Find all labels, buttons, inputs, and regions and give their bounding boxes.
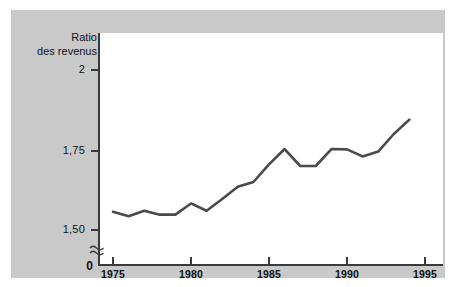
x-tick-label-1995: 1995 — [402, 268, 448, 280]
y-tick-2 — [91, 69, 99, 71]
chart-panel: Ratio des revenus 2 1,75 1,50 0 1975 198… — [11, 10, 445, 278]
x-tick-label-1980: 1980 — [168, 268, 214, 280]
x-tick-label-1990: 1990 — [324, 268, 370, 280]
y-axis-title-line2: des revenus — [23, 44, 97, 58]
y-tick-175 — [91, 150, 99, 152]
chart-figure: Ratio des revenus 2 1,75 1,50 0 1975 198… — [0, 0, 455, 287]
y-tick-150 — [91, 229, 99, 231]
y-axis-title: Ratio des revenus — [23, 30, 97, 58]
data-series-line — [99, 33, 443, 265]
x-tick-label-1985: 1985 — [246, 268, 292, 280]
y-tick-label-175: 1,75 — [23, 144, 85, 156]
y-axis-title-line1: Ratio — [23, 30, 97, 44]
y-tick-label-150: 1,50 — [23, 223, 85, 235]
x-tick-label-1975: 1975 — [90, 268, 136, 280]
y-tick-label-2: 2 — [23, 63, 85, 75]
